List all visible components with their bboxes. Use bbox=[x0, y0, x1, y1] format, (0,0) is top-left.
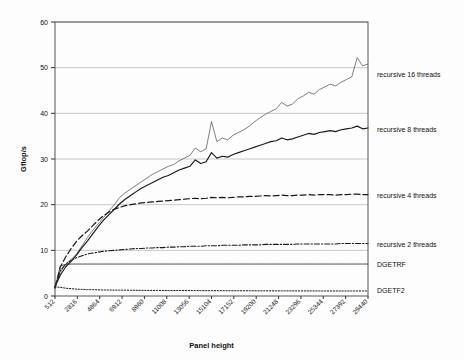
y-tick-label: 20 bbox=[40, 201, 48, 208]
y-tick-label: 60 bbox=[40, 19, 48, 26]
x-axis-title: Panel height bbox=[189, 341, 234, 350]
y-tick-label: 40 bbox=[40, 110, 48, 117]
x-tick-label: 29440 bbox=[351, 297, 369, 315]
legend-label-3: recursive 2 threads bbox=[377, 241, 437, 248]
x-tick-label: 13056 bbox=[172, 297, 190, 315]
series-line-1 bbox=[55, 126, 368, 287]
x-tick-label: 21248 bbox=[262, 297, 280, 315]
x-tick-label: 15104 bbox=[194, 297, 212, 315]
y-axis-ticks: 0102030405060 bbox=[40, 19, 55, 300]
x-tick-label: 2816 bbox=[63, 297, 78, 312]
x-tick-label: 8960 bbox=[130, 297, 145, 312]
y-axis-title: Gflop/s bbox=[19, 146, 28, 172]
series-line-2 bbox=[55, 194, 368, 287]
series-line-0 bbox=[55, 58, 368, 287]
series-line-5 bbox=[55, 287, 368, 291]
legend-group: recursive 16 threadsrecursive 8 threadsr… bbox=[377, 71, 441, 294]
x-tick-label: 6912 bbox=[108, 297, 123, 312]
x-tick-label: 17152 bbox=[217, 297, 235, 315]
data-series-group bbox=[55, 58, 368, 291]
x-tick-label: 27392 bbox=[329, 297, 347, 315]
legend-label-0: recursive 16 threads bbox=[377, 71, 441, 78]
x-tick-label: 23296 bbox=[284, 297, 302, 315]
y-tick-label: 50 bbox=[40, 64, 48, 71]
x-tick-label: 25344 bbox=[306, 297, 324, 315]
legend-label-5: DGETF2 bbox=[377, 287, 405, 294]
y-tick-label: 10 bbox=[40, 247, 48, 254]
gridlines-group bbox=[55, 22, 368, 250]
series-line-4 bbox=[55, 264, 368, 289]
x-tick-label: 11008 bbox=[150, 297, 168, 315]
x-axis-ticks: 5122816486469128960110081305615104171521… bbox=[43, 296, 369, 315]
line-chart: 0102030405060 51228164864691289601100813… bbox=[0, 0, 464, 360]
y-tick-label: 0 bbox=[44, 293, 48, 300]
chart-container: 0102030405060 51228164864691289601100813… bbox=[0, 0, 464, 360]
legend-label-1: recursive 8 threads bbox=[377, 126, 437, 133]
y-tick-label: 30 bbox=[40, 156, 48, 163]
legend-label-2: recursive 4 threads bbox=[377, 192, 437, 199]
x-tick-label: 4864 bbox=[85, 297, 100, 312]
legend-label-4: DGETRF bbox=[377, 261, 406, 268]
x-tick-label: 19200 bbox=[239, 297, 257, 315]
